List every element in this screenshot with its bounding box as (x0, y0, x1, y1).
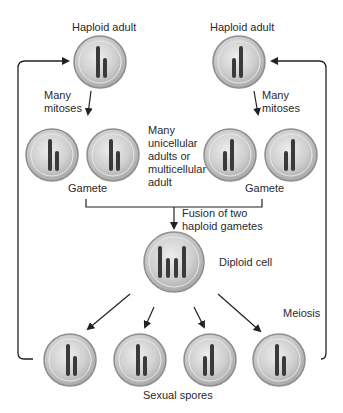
label-fusion: Fusion of two haploid gametes (182, 207, 263, 233)
diploid-cell (144, 232, 204, 292)
label-middle-note: Many unicellular adults or multicellular… (148, 124, 206, 189)
label-sexual-spores: Sexual spores (143, 389, 213, 402)
spore-cell-4 (253, 334, 305, 386)
label-diploid-cell: Diploid cell (219, 256, 272, 269)
spore-cell-1 (44, 334, 96, 386)
fusion-bracket (86, 199, 262, 207)
gamete-cell-left-1 (26, 129, 78, 181)
label-meiosis: Meiosis (283, 307, 320, 320)
spore-cell-3 (184, 334, 236, 386)
haploid-adult-right-cell (213, 36, 265, 88)
life-cycle-diagram (0, 0, 343, 413)
gamete-cell-right-1 (204, 129, 256, 181)
spore-cell-2 (114, 334, 166, 386)
gamete-cell-left-2 (87, 129, 139, 181)
label-mitoses-right: Many mitoses (262, 89, 300, 115)
label-gamete-right: Gamete (245, 182, 284, 195)
label-haploid-adult-left: Haploid adult (72, 21, 136, 34)
label-haploid-adult-right: Haploid adult (210, 21, 274, 34)
label-gamete-left: Gamete (68, 182, 107, 195)
label-mitoses-left: Many mitoses (44, 89, 82, 115)
gamete-cell-right-2 (265, 129, 317, 181)
haploid-adult-left-cell (74, 36, 126, 88)
